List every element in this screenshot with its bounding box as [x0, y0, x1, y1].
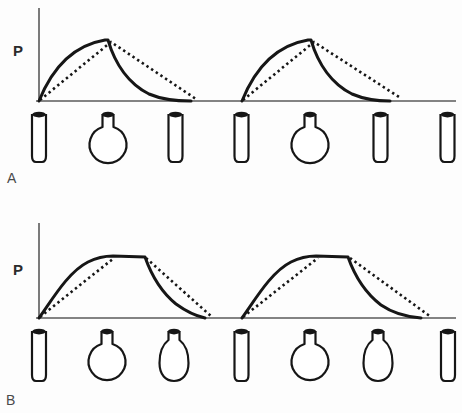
round-flask — [90, 114, 127, 163]
round-flask — [291, 331, 328, 380]
tube — [441, 331, 455, 381]
round-flask-cap — [101, 329, 113, 335]
round-flask — [89, 331, 126, 380]
tube — [374, 114, 388, 162]
pulse-2-solid-curve — [242, 40, 390, 101]
tube-cap — [235, 112, 249, 118]
tube-cap — [235, 329, 249, 335]
panel-a-label: A — [7, 171, 16, 185]
round-flask-cap — [304, 329, 316, 335]
pressure-axis-label: P — [13, 262, 24, 277]
panel-b-label: B — [6, 393, 15, 407]
pulse-2-dotted-curve — [243, 258, 431, 317]
tube-cap — [32, 112, 46, 118]
tube — [169, 114, 183, 162]
round-flask-cap — [102, 112, 114, 118]
tube — [32, 331, 46, 381]
panel-b: P B — [0, 200, 462, 413]
pressure-axis-label: P — [13, 43, 24, 58]
tube-cap — [374, 112, 388, 118]
tube-cap — [32, 329, 46, 335]
pressure-pulse-figure: P A P B — [0, 0, 462, 413]
pear-flask-cap — [372, 329, 384, 335]
pulse-1-dotted-curve — [40, 42, 196, 100]
tube — [235, 114, 249, 162]
panel-b-canvas — [0, 200, 462, 413]
tube — [441, 114, 455, 162]
round-flask — [291, 114, 328, 163]
tube — [235, 331, 249, 381]
pulse-1-solid-curve — [39, 256, 205, 318]
panel-a-canvas — [0, 0, 462, 200]
pear-flask — [364, 331, 393, 381]
pear-flask-cap — [168, 329, 180, 335]
tube-cap — [441, 112, 455, 118]
pulse-2-dotted-curve — [243, 42, 399, 100]
pulse-1-dotted-curve — [40, 258, 212, 317]
pulse-1-solid-curve — [39, 40, 191, 101]
panel-a: P A — [0, 0, 462, 200]
tube-cap — [441, 329, 455, 335]
pear-flask — [160, 331, 189, 381]
pulse-2-solid-curve — [242, 256, 421, 318]
tube — [32, 114, 46, 162]
round-flask-cap — [304, 112, 316, 118]
tube-cap — [169, 112, 183, 118]
